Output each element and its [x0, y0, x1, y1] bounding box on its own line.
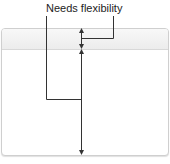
- arrowhead-up-icon: [79, 28, 84, 33]
- left-leader-line: [47, 16, 82, 100]
- right-leader-line: [82, 16, 114, 39]
- arrowhead-down-icon: [79, 150, 84, 155]
- arrowhead-up-icon: [79, 49, 84, 54]
- annotation-arrows: [0, 0, 170, 164]
- arrowhead-down-icon: [79, 44, 84, 49]
